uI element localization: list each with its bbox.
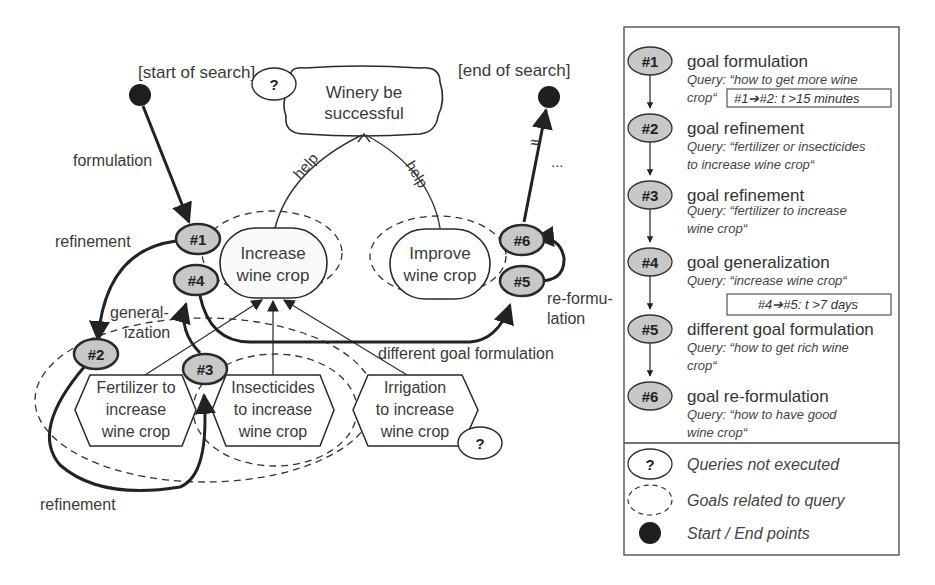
query-node-4: #4 bbox=[174, 265, 218, 295]
task-insecticides: Insecticides to increase wine crop bbox=[212, 375, 334, 446]
svg-text:to increase: to increase bbox=[376, 401, 454, 418]
task-irrigation: Irrigation to increase wine crop bbox=[353, 375, 478, 446]
legend-step-query: wine crop“ bbox=[687, 221, 748, 236]
label-reformulation-1: re-formu- bbox=[547, 290, 613, 307]
svg-text:#4: #4 bbox=[642, 254, 659, 271]
start-of-search-label: [start of search] bbox=[138, 63, 255, 82]
svg-text:#1➔#2: t >15 minutes: #1➔#2: t >15 minutes bbox=[734, 91, 860, 106]
svg-text:wine crop: wine crop bbox=[101, 423, 171, 440]
legend-step-title: different goal formulation bbox=[687, 320, 874, 339]
svg-text:?: ? bbox=[475, 435, 484, 452]
edge-end-of-search bbox=[524, 110, 546, 222]
svg-text:Insecticides: Insecticides bbox=[231, 379, 315, 396]
edge-different-goal-4-5 bbox=[200, 296, 510, 342]
goal-winery-line1: Winery be bbox=[326, 83, 403, 102]
filled-circle-icon bbox=[639, 522, 661, 544]
help-label-right: help bbox=[402, 158, 431, 191]
svg-text:#3: #3 bbox=[642, 187, 659, 204]
query-node-1: #1 bbox=[176, 224, 220, 254]
svg-text:wine crop: wine crop bbox=[236, 266, 310, 285]
svg-text:to increase: to increase bbox=[234, 401, 312, 418]
svg-text:increase: increase bbox=[106, 401, 167, 418]
legend-step-query: Query: “how to have good bbox=[687, 407, 837, 422]
legend-step-query: Query: “how to get more wine bbox=[687, 72, 858, 87]
legend-step-title: goal refinement bbox=[687, 119, 804, 138]
label-generalization-1: general- bbox=[110, 304, 169, 321]
gap-icon: ≈ bbox=[531, 134, 539, 150]
svg-text:#3: #3 bbox=[197, 361, 214, 378]
legend-step-query: to increase wine crop“ bbox=[687, 157, 815, 172]
svg-text:#4: #4 bbox=[188, 272, 205, 289]
legend-step-query: Query: “fertilizer to increase bbox=[687, 203, 847, 218]
legend-step-title: goal formulation bbox=[687, 52, 808, 71]
svg-text:#1: #1 bbox=[190, 231, 207, 248]
legend-step-query: Query: “increase wine crop“ bbox=[687, 273, 847, 288]
goal-winery-line2: successful bbox=[324, 104, 403, 123]
svg-text:#2: #2 bbox=[88, 346, 105, 363]
svg-text:Fertilizer to: Fertilizer to bbox=[96, 379, 175, 396]
svg-text:Increase: Increase bbox=[240, 244, 305, 263]
svg-text:Start / End points: Start / End points bbox=[687, 525, 810, 542]
svg-text:#2: #2 bbox=[642, 120, 659, 137]
task-edge-irrigation bbox=[284, 300, 407, 375]
svg-text:wine crop: wine crop bbox=[380, 423, 450, 440]
query-not-executed-icon: ? bbox=[458, 427, 502, 459]
label-formulation: formulation bbox=[73, 152, 152, 169]
help-edge-left bbox=[275, 135, 362, 228]
query-node-5: #5 bbox=[500, 266, 544, 296]
label-different-goal: different goal formulation bbox=[378, 345, 554, 362]
svg-text:?: ? bbox=[269, 76, 278, 93]
svg-text:#6: #6 bbox=[642, 388, 659, 405]
svg-text:Goals related to query: Goals related to query bbox=[687, 492, 845, 509]
svg-text:Improve: Improve bbox=[409, 244, 470, 263]
svg-text:?: ? bbox=[645, 456, 654, 473]
legend-panel: #1 goal formulation Query: “how to get m… bbox=[624, 27, 899, 555]
svg-text:Queries not executed: Queries not executed bbox=[687, 456, 840, 473]
svg-text:#6: #6 bbox=[514, 232, 531, 249]
query-not-executed-icon: ? bbox=[252, 68, 296, 100]
label-refinement-top: refinement bbox=[55, 233, 131, 250]
svg-text:Irrigation: Irrigation bbox=[384, 379, 446, 396]
legend-step-query: crop“ bbox=[687, 358, 717, 373]
legend-step-title: goal generalization bbox=[687, 253, 830, 272]
legend-time-box-2: #4➔#5: t >7 days bbox=[727, 294, 891, 315]
svg-text:#5: #5 bbox=[642, 321, 659, 338]
legend-time-box-1: #1➔#2: t >15 minutes bbox=[727, 89, 891, 107]
query-node-2: #2 bbox=[74, 339, 118, 369]
start-point-icon bbox=[129, 84, 151, 106]
legend-step-title: goal re-formulation bbox=[687, 387, 829, 406]
svg-text:#4➔#5: t >7 days: #4➔#5: t >7 days bbox=[758, 297, 859, 312]
label-generalization-2: ization bbox=[124, 324, 170, 341]
ellipsis-label: ... bbox=[551, 153, 564, 170]
end-point-icon bbox=[538, 86, 560, 108]
legend-step-query: crop“ bbox=[687, 90, 717, 105]
help-label-left: help bbox=[290, 150, 322, 182]
goal-improve-wine-crop: Improve wine crop bbox=[390, 229, 490, 299]
svg-text:wine crop: wine crop bbox=[238, 423, 308, 440]
legend-step-query: Query: “how to get rich wine bbox=[687, 340, 849, 355]
task-fertilizer: Fertilizer to increase wine crop bbox=[75, 375, 196, 446]
legend-step-query: wine crop“ bbox=[687, 425, 748, 440]
goal-winery-be-successful: Winery be successful bbox=[284, 66, 443, 136]
svg-text:wine crop: wine crop bbox=[403, 266, 477, 285]
diagram-canvas: [start of search] [end of search] Winery… bbox=[0, 0, 935, 585]
svg-text:#1: #1 bbox=[642, 53, 659, 70]
query-node-6: #6 bbox=[500, 225, 544, 255]
end-of-search-label: [end of search] bbox=[458, 61, 570, 80]
label-reformulation-2: lation bbox=[547, 310, 585, 327]
svg-text:#5: #5 bbox=[514, 273, 531, 290]
query-node-3: #3 bbox=[183, 354, 227, 384]
legend-step-query: Query: “fertilizer or insecticides bbox=[687, 139, 866, 154]
goal-increase-wine-crop: Increase wine crop bbox=[220, 228, 327, 298]
label-refinement-bottom: refinement bbox=[40, 496, 116, 513]
